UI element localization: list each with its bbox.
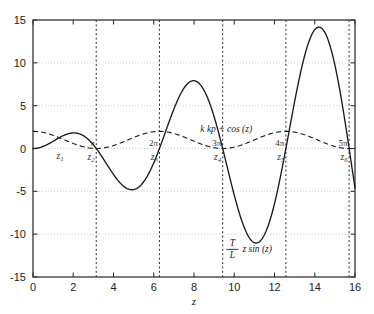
- pi-label-1: π: [90, 138, 95, 148]
- ytick-label-5: 5: [20, 100, 26, 112]
- pi-label-3: 3π: [212, 138, 222, 148]
- annotation-fraction-denominator: L: [229, 250, 235, 260]
- annotation-fraction-numerator: T: [230, 238, 236, 248]
- annotation-k-kp-plus-cos-z: k kp + cos (z): [200, 124, 252, 135]
- xtick-label-12: 12: [268, 281, 280, 293]
- ytick-label--5: -5: [16, 185, 26, 197]
- xtick-label-4: 4: [110, 281, 116, 293]
- pi-label-2: 2π: [149, 138, 159, 148]
- xtick-label-14: 14: [309, 281, 321, 293]
- pi-label-4: 4π: [275, 138, 285, 148]
- ytick-label-10: 10: [14, 57, 26, 69]
- xtick-label-0: 0: [30, 281, 36, 293]
- pi-label-5: 5π: [339, 138, 349, 148]
- chart-canvas: 0246810121416-15-10-5051015z πz22πz33πz4…: [0, 0, 374, 314]
- ytick-label-15: 15: [14, 14, 26, 26]
- ytick-label--10: -10: [10, 228, 26, 240]
- ytick-label-0: 0: [20, 143, 26, 155]
- xtick-label-8: 8: [191, 281, 197, 293]
- annotation-t-over-l-z-sin-z: z sin (z): [241, 244, 272, 255]
- xtick-label-10: 10: [228, 281, 240, 293]
- x-axis-title: z: [191, 295, 197, 307]
- xtick-label-16: 16: [349, 281, 361, 293]
- xtick-label-2: 2: [70, 281, 76, 293]
- ytick-label--15: -15: [10, 271, 26, 283]
- xtick-label-6: 6: [151, 281, 157, 293]
- figure-container: 0246810121416-15-10-5051015z πz22πz33πz4…: [0, 0, 374, 314]
